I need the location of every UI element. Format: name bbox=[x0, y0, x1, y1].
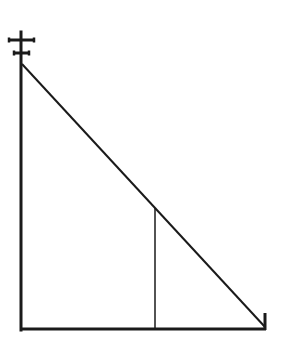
diagonal-line bbox=[22, 64, 265, 327]
diagram-canvas bbox=[0, 0, 291, 356]
